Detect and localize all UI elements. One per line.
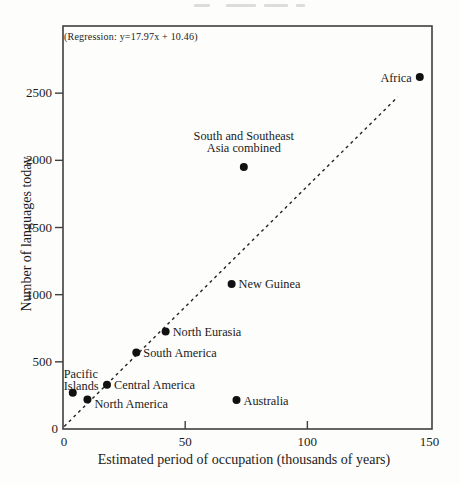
point-label-central-america: Central America [114, 378, 195, 392]
point-south-america [132, 348, 140, 356]
point-north-eurasia [162, 328, 170, 336]
point-new-guinea [228, 280, 236, 288]
y-tick-label: 500 [33, 354, 53, 369]
y-tick-label: 1500 [26, 220, 52, 235]
scatter-plot-figure: (Regression: y=17.97x + 10.46) Number of… [0, 0, 459, 485]
point-south-and-southeast-asia-combined [240, 163, 248, 171]
y-tick-label: 2500 [26, 85, 52, 100]
point-label-north-america: North America [94, 397, 168, 411]
point-label-new-guinea: New Guinea [239, 277, 301, 291]
point-central-america [103, 381, 111, 389]
point-label-north-eurasia: North Eurasia [173, 325, 242, 339]
point-label-africa: Africa [380, 71, 412, 85]
x-tick-label: 150 [420, 434, 440, 449]
y-tick-label: 0 [52, 421, 59, 436]
plot-frame [63, 26, 432, 429]
point-africa [416, 73, 424, 81]
point-australia [233, 396, 241, 404]
y-tick-label: 2000 [26, 152, 52, 167]
point-north-america [83, 395, 91, 403]
point-label-pacific-islands: Islands [64, 379, 99, 393]
x-tick-label: 0 [61, 434, 68, 449]
x-tick-label: 50 [179, 434, 192, 449]
point-label-south-and-southeast-asia-combined: Asia combined [207, 141, 281, 155]
y-tick-label: 1000 [26, 287, 52, 302]
point-label-australia: Australia [244, 394, 290, 408]
point-label-south-america: South America [143, 346, 217, 360]
x-tick-label: 100 [298, 434, 318, 449]
chart-canvas: 05010015005001000150020002500PacificIsla… [0, 0, 459, 485]
